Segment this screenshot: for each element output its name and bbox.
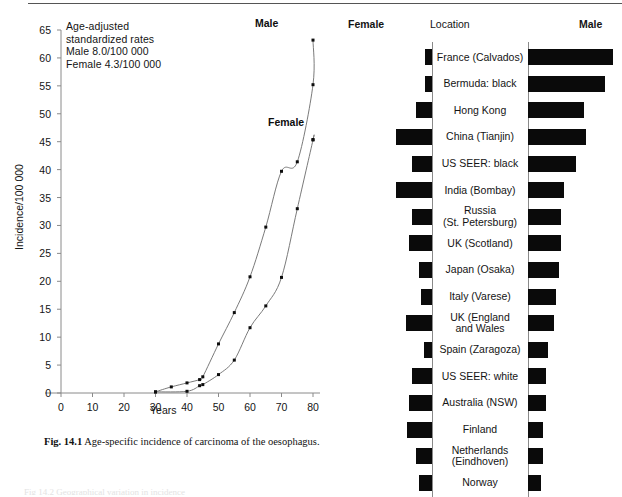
male-bar	[528, 156, 576, 172]
location-label: US SEER: black	[436, 150, 524, 177]
tornado-row: India (Bombay)	[336, 177, 622, 204]
y-tick-label: 25	[29, 247, 51, 259]
female-bar	[419, 475, 432, 491]
x-tick-label: 30	[145, 401, 167, 413]
tornado-row: Finland	[336, 416, 622, 443]
male-bar	[528, 422, 543, 438]
y-tick-label: 55	[29, 80, 51, 92]
tornado-row: France (Calvados)	[336, 44, 622, 71]
location-label: Norway	[436, 470, 524, 497]
male-curve	[156, 40, 315, 392]
y-axis-label: Incidence/100 000	[13, 142, 25, 272]
x-tick-label: 20	[113, 401, 135, 413]
male-series-label: Male	[255, 17, 278, 29]
male-bar	[528, 262, 559, 278]
location-label: Netherlands (Eindhoven)	[436, 443, 524, 470]
male-bar	[528, 182, 564, 198]
location-label: Bermuda: black	[436, 71, 524, 98]
y-tick-label: 30	[29, 219, 51, 231]
male-bar	[528, 289, 556, 305]
location-label: Japan (Osaka)	[436, 257, 524, 284]
y-tick-label: 40	[29, 164, 51, 176]
female-bar	[409, 235, 432, 251]
tornado-row: Netherlands (Eindhoven)	[336, 443, 622, 470]
female-bar	[407, 422, 432, 438]
tornado-row: UK (England and Wales	[336, 310, 622, 337]
cut-off-caption: Fig 14.2 Geographical variation in incid…	[24, 487, 324, 495]
location-label: US SEER: white	[436, 363, 524, 390]
female-bar	[396, 182, 432, 198]
male-bar	[528, 209, 561, 225]
y-tick-label: 20	[29, 275, 51, 287]
male-bar	[528, 102, 584, 118]
location-label: Australia (NSW)	[436, 390, 524, 417]
male-bar	[528, 448, 543, 464]
female-series-label: Female	[268, 116, 304, 128]
age-specific-incidence-figure: Age-adjusted standardized rates Male 8.0…	[0, 8, 336, 423]
figure-caption-number: Fig. 14.1	[44, 436, 82, 447]
x-tick-label: 60	[239, 401, 261, 413]
y-tick-label: 15	[29, 303, 51, 315]
female-curve	[156, 135, 315, 392]
female-bar	[412, 368, 432, 384]
x-tick-label: 80	[302, 401, 324, 413]
tornado-row: Australia (NSW)	[336, 390, 622, 417]
female-data-points	[154, 138, 315, 393]
location-label: UK (Scotland)	[436, 230, 524, 257]
male-bar	[528, 76, 605, 92]
tornado-row: Norway	[336, 470, 622, 497]
figure-page: Age-adjusted standardized rates Male 8.0…	[0, 0, 622, 497]
y-tick-label: 35	[29, 192, 51, 204]
chart-annotation: Age-adjusted standardized rates Male 8.0…	[66, 20, 161, 70]
location-label: Finland	[436, 416, 524, 443]
tornado-row: UK (Scotland)	[336, 230, 622, 257]
location-label: France (Calvados)	[436, 44, 524, 71]
male-bar	[528, 342, 548, 358]
figure-caption: Fig. 14.1 Age-specific incidence of carc…	[44, 436, 344, 447]
header-male: Male	[579, 18, 602, 30]
y-tick-label: 65	[29, 24, 51, 36]
y-tick-label: 0	[29, 387, 51, 399]
location-label: India (Bombay)	[436, 177, 524, 204]
female-bar	[421, 289, 433, 305]
y-tick-label: 45	[29, 136, 51, 148]
male-bar	[528, 49, 613, 65]
tornado-row: US SEER: black	[336, 150, 622, 177]
tornado-row: Hong Kong	[336, 97, 622, 124]
male-bar	[528, 315, 554, 331]
female-bar	[406, 315, 432, 331]
x-tick-label: 50	[208, 401, 230, 413]
female-bar	[419, 262, 432, 278]
location-label: China (Tianjin)	[436, 124, 524, 151]
male-bar	[528, 368, 546, 384]
female-bar	[412, 156, 432, 172]
male-bar	[528, 395, 546, 411]
female-bar	[412, 209, 432, 225]
female-bar	[425, 49, 432, 65]
female-bar	[416, 448, 432, 464]
female-bar	[416, 102, 432, 118]
x-tick-label: 70	[271, 401, 293, 413]
x-tick-label: 10	[82, 401, 104, 413]
y-tick-label: 10	[29, 331, 51, 343]
y-tick-marks	[57, 30, 61, 393]
male-bar	[528, 129, 586, 145]
location-label: Hong Kong	[436, 97, 524, 124]
x-tick-label: 0	[50, 401, 72, 413]
male-data-points	[154, 39, 315, 394]
tornado-row: Japan (Osaka)	[336, 257, 622, 284]
x-tick-label: 40	[176, 401, 198, 413]
female-bar	[424, 342, 432, 358]
female-bar	[396, 129, 432, 145]
figure-caption-text: Age-specific incidence of carcinoma of t…	[84, 436, 319, 447]
location-label: Russia (St. Petersburg)	[436, 204, 524, 231]
male-bar	[528, 235, 561, 251]
geographic-variation-figure: Female Location Male France (Calvados)Be…	[336, 8, 622, 497]
y-tick-label: 50	[29, 108, 51, 120]
header-female: Female	[348, 18, 384, 30]
page-top-rule	[28, 3, 622, 4]
tornado-row: Spain (Zaragoza)	[336, 337, 622, 364]
female-bar	[425, 76, 432, 92]
y-tick-label: 5	[29, 359, 51, 371]
male-bar	[528, 475, 541, 491]
